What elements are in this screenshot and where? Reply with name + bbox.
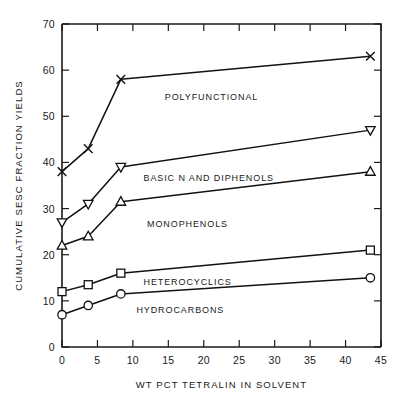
- x-tick-label: 45: [375, 354, 387, 366]
- x-tick-label: 20: [198, 354, 210, 366]
- x-tick-label: 25: [233, 354, 245, 366]
- x-tick-label: 35: [304, 354, 316, 366]
- data-marker-circle: [117, 290, 125, 298]
- series-line-polyfunctional: [62, 56, 370, 171]
- chart-container: 010203040506070051015202530354045WT PCT …: [0, 0, 403, 401]
- y-tick-label: 20: [43, 249, 55, 261]
- series-label-heterocyclics: HETEROCYCLICS: [144, 277, 232, 287]
- data-marker-square: [84, 281, 92, 289]
- y-tick-label: 50: [43, 110, 55, 122]
- data-marker-circle: [84, 301, 92, 309]
- data-marker-circle: [366, 274, 374, 282]
- series-label-basic-n-and-diphenols: BASIC N AND DIPHENOLS: [144, 173, 274, 183]
- data-marker-triangle-down: [83, 200, 93, 209]
- data-marker-square: [366, 246, 374, 254]
- y-tick-label: 70: [43, 18, 55, 30]
- data-marker-circle: [58, 311, 66, 319]
- series-label-monophenols: MONOPHENOLS: [147, 219, 228, 229]
- x-axis-title: WT PCT TETRALIN IN SOLVENT: [136, 379, 307, 390]
- data-marker-triangle-down: [57, 219, 67, 228]
- sesc-fraction-yield-line-chart: 010203040506070051015202530354045WT PCT …: [0, 0, 403, 401]
- x-tick-label: 0: [59, 354, 65, 366]
- y-axis-title: CUMULATIVE SESC FRACTION YIELDS: [13, 80, 24, 291]
- x-tick-label: 40: [339, 354, 351, 366]
- x-tick-label: 10: [127, 354, 139, 366]
- x-tick-label: 15: [162, 354, 174, 366]
- data-marker-square: [117, 269, 125, 277]
- data-marker-x: [84, 144, 93, 153]
- data-marker-triangle-up: [366, 167, 376, 176]
- y-tick-label: 30: [43, 203, 55, 215]
- x-tick-label: 30: [269, 354, 281, 366]
- data-marker-square: [58, 288, 66, 296]
- x-tick-label: 5: [94, 354, 100, 366]
- y-tick-label: 60: [43, 64, 55, 76]
- series-label-polyfunctional: POLYFUNCTIONAL: [165, 92, 258, 102]
- y-tick-label: 10: [43, 295, 55, 307]
- y-tick-label: 40: [43, 156, 55, 168]
- series-label-hydrocarbons: HYDROCARBONS: [136, 305, 224, 315]
- y-tick-label: 0: [49, 341, 55, 353]
